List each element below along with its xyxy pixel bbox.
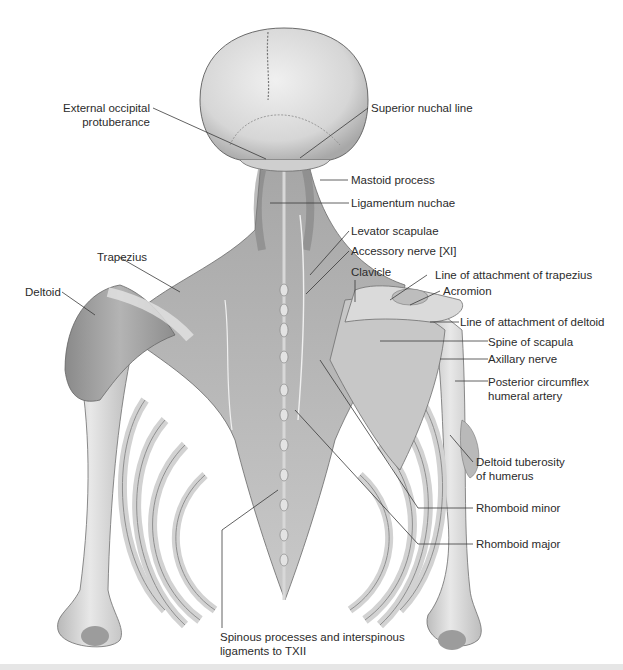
label-line-attachment-deltoid: Line of attachment of deltoid xyxy=(460,315,605,329)
label-acromion: Acromion xyxy=(443,284,492,298)
label-deltoid: Deltoid xyxy=(25,285,61,299)
label-posterior-circumflex-humeral-artery: Posterior circumflex humeral artery xyxy=(488,375,589,403)
label-external-occipital-protuberance: External occipital protuberance xyxy=(40,101,150,129)
bottom-divider xyxy=(0,664,623,670)
label-rhomboid-major: Rhomboid major xyxy=(476,537,560,551)
label-line-attachment-trapezius: Line of attachment of trapezius xyxy=(435,268,592,282)
label-rhomboid-minor: Rhomboid minor xyxy=(476,501,560,515)
label-mastoid-process: Mastoid process xyxy=(351,173,435,187)
skull xyxy=(200,28,368,171)
label-ligamentum-nuchae: Ligamentum nuchae xyxy=(351,196,455,210)
label-spine-of-scapula: Spine of scapula xyxy=(488,335,573,349)
label-levator-scapulae: Levator scapulae xyxy=(351,224,439,238)
label-accessory-nerve: Accessory nerve [XI] xyxy=(351,244,456,258)
label-trapezius: Trapezius xyxy=(97,250,147,264)
label-superior-nuchal-line: Superior nuchal line xyxy=(371,101,473,115)
label-axillary-nerve: Axillary nerve xyxy=(488,352,557,366)
label-deltoid-tuberosity: Deltoid tuberosity of humerus xyxy=(476,455,565,483)
label-spinous-processes: Spinous processes and interspinous ligam… xyxy=(220,630,405,658)
label-clavicle: Clavicle xyxy=(351,265,391,279)
